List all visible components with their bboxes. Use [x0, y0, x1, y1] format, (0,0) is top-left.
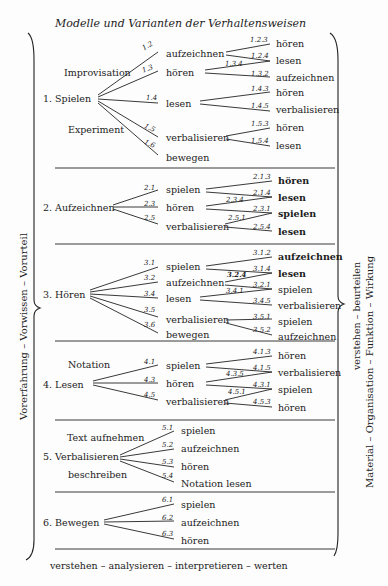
- sublabel-beschreiben: beschreiben: [68, 469, 127, 480]
- branch-label: aufzeichnen: [181, 517, 239, 528]
- section-label-spielen: 1. Spielen: [43, 93, 91, 104]
- leaf-code: 4.1.3: [253, 348, 271, 356]
- branch-label: hören: [166, 378, 194, 389]
- leaf-code: 1.3.2: [251, 70, 269, 78]
- leaf-label: hören: [278, 175, 309, 186]
- leaf-code: 1.2.3: [250, 36, 268, 44]
- section-label-lesen: 4. Lesen: [43, 379, 84, 390]
- branch-code: 3.1: [144, 259, 155, 267]
- left-brace-label: Vorerfahrung – Vorwissen – Vorurteil: [18, 233, 29, 420]
- leaf-code: 2.1.4: [253, 189, 271, 197]
- branch-label: spielen: [181, 425, 215, 436]
- branch-code: 6.2: [162, 514, 173, 522]
- leaf-code: 2.5.1: [228, 214, 246, 222]
- leaf-code: 3.1.2: [253, 249, 271, 257]
- branch-code: 5.3: [162, 458, 173, 466]
- leaf-code: 4.3.5: [226, 370, 244, 378]
- leaf-label: aufzeichnen: [278, 331, 336, 342]
- branch-label: aufzeichnen: [166, 277, 224, 288]
- leaf-label: verbalisieren: [278, 300, 341, 311]
- branch-code: 4.1: [144, 358, 155, 366]
- right-brace-label-top: verstehen – beurteilen: [351, 262, 362, 370]
- branch-label: hören: [181, 461, 209, 472]
- branch-code: 2.3: [144, 200, 155, 208]
- branch-label: lesen: [166, 98, 191, 109]
- branch-label: Notation lesen: [181, 478, 252, 489]
- leaf-code: 3.2.4: [227, 271, 247, 279]
- branch-label: hören: [166, 202, 194, 213]
- diagram: Modelle und Varianten der Verhaltensweis…: [0, 0, 388, 586]
- leaf-code: 4.1.5: [253, 364, 271, 372]
- leaf-label: lesen: [278, 226, 306, 237]
- branch-code: 5.1: [162, 424, 173, 432]
- leaf-label: verbalisieren: [276, 104, 339, 115]
- leaf-label: lesen: [276, 55, 301, 66]
- leaf-label: spielen: [278, 208, 316, 219]
- branch-code: 3.4: [144, 290, 155, 298]
- branch-label: verbalisieren: [166, 314, 229, 325]
- branch-code: 6.3: [162, 530, 173, 538]
- leaf-label: hören: [276, 87, 304, 98]
- leaf-label: lesen: [278, 192, 306, 203]
- branch-code: 5.4: [162, 472, 173, 480]
- leaf-label: lesen: [278, 268, 306, 279]
- leaf-code: 4.5.3: [253, 398, 271, 406]
- section-label-bewegen: 6. Bewegen: [43, 517, 99, 528]
- branch-code: 4.5: [144, 391, 155, 399]
- leaf-label: hören: [278, 402, 306, 413]
- branch-label: aufzeichnen: [166, 48, 224, 59]
- leaf-label: hören: [276, 38, 304, 49]
- sublabel-notation: Notation: [68, 359, 110, 370]
- leaf-code: 1.2.4: [251, 52, 269, 60]
- leaf-label: hören: [278, 350, 306, 361]
- branch-label: bewegen: [166, 152, 209, 163]
- branch-label: bewegen: [166, 329, 209, 340]
- leaf-code: 3.2.1: [253, 281, 271, 289]
- leaf-label: aufzeichnen: [276, 72, 334, 83]
- branch-label: verbalisieren: [166, 221, 229, 232]
- sublabel-text-aufnehmen: Text aufnehmen: [67, 432, 144, 443]
- leaf-code: 2.1.3: [253, 173, 271, 181]
- branch-code: 3.5: [144, 306, 155, 314]
- leaf-code: 1.5.4: [251, 137, 269, 145]
- leaf-code: 1.4.5: [251, 102, 269, 110]
- branch-label: aufzeichnen: [181, 443, 239, 454]
- leaf-code: 2.3.4: [226, 196, 244, 204]
- branch-label: verbalisieren: [166, 132, 229, 143]
- leaf-code: 3.1.4: [253, 265, 271, 273]
- branch-label: verbalisieren: [166, 396, 229, 407]
- branch-label: lesen: [166, 293, 191, 304]
- branch-label: hören: [181, 535, 209, 546]
- leaf-label: hören: [276, 122, 304, 133]
- branch-code: 3.6: [144, 321, 155, 329]
- branch-code: 6.1: [162, 496, 173, 504]
- leaf-code: 3.4.1: [226, 287, 244, 295]
- leaf-label: verbalisieren: [278, 367, 341, 378]
- leaf-code: 3.4.5: [253, 297, 271, 305]
- branch-label: spielen: [166, 261, 200, 272]
- branch-label: hören: [166, 67, 194, 78]
- section-label-verbalisieren: 5. Verbalisieren: [43, 451, 119, 462]
- branch-code: 2.5: [144, 214, 155, 222]
- leaf-code: 2.5.4: [253, 223, 271, 231]
- branch-code: 3.2: [144, 274, 155, 282]
- branch-code: 5.2: [162, 441, 173, 449]
- leaf-code: 2.3.1: [253, 205, 271, 213]
- branch-label: spielen: [166, 360, 200, 371]
- branch-code: 2.1: [144, 184, 155, 192]
- leaf-code: 4.3.1: [253, 381, 271, 389]
- branch-code: 1.4: [146, 94, 157, 102]
- leaf-label: spielen: [278, 284, 312, 295]
- leaf-label: spielen: [278, 316, 312, 327]
- right-brace-label-bottom: Material – Organisation – Funktion – Wir…: [364, 256, 375, 488]
- sublabel-improvisation: Improvisation: [64, 67, 131, 78]
- leaf-label: lesen: [276, 140, 301, 151]
- branch-code: 4.3: [144, 376, 155, 384]
- leaf-code: 1.5.3: [251, 120, 269, 128]
- section-label-aufzeichnen: 2. Aufzeichnen: [43, 202, 115, 213]
- leaf-code: 1.4.3: [251, 85, 269, 93]
- leaf-code: 3.5.1: [253, 313, 271, 321]
- footer-caption: verstehen – analysieren – interpretieren…: [50, 560, 288, 571]
- diagram-title: Modelle und Varianten der Verhaltensweis…: [55, 17, 306, 30]
- leaf-label: spielen: [278, 384, 312, 395]
